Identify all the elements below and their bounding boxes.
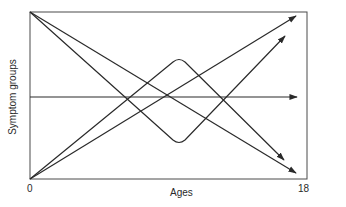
x-axis-tick-start: 0 [27, 183, 33, 194]
trajectory-high-decreasing [30, 12, 296, 173]
trajectory-diagram [0, 0, 346, 207]
x-axis-tick-end: 18 [298, 183, 309, 194]
x-axis-label: Ages [170, 187, 193, 198]
y-axis-label: Symptom groups [7, 59, 18, 135]
